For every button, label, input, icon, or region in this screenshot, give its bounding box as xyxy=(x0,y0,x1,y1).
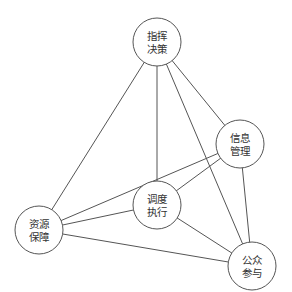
node-info: 信息 管理 xyxy=(216,120,264,168)
node-dispatch: 调度 执行 xyxy=(133,181,181,229)
node-resource-label-line1: 资源 xyxy=(29,218,50,230)
node-layer: 指挥 决策 信息 管理 调度 执行 资源 保障 公众 参与 xyxy=(15,18,276,290)
node-command: 指挥 决策 xyxy=(133,18,181,66)
node-resource: 资源 保障 xyxy=(15,206,63,254)
node-info-label-line1: 信息 xyxy=(230,132,250,144)
node-public-label-line1: 公众 xyxy=(242,254,263,266)
node-dispatch-circle xyxy=(133,181,181,229)
network-diagram: 指挥 决策 信息 管理 调度 执行 资源 保障 公众 参与 xyxy=(0,0,292,292)
node-public-circle xyxy=(228,242,276,290)
node-resource-circle xyxy=(15,206,63,254)
node-command-circle xyxy=(133,18,181,66)
node-command-label-line1: 指挥 xyxy=(147,30,168,42)
edge-resource-public xyxy=(39,230,252,266)
node-command-label-line2: 决策 xyxy=(147,43,168,55)
node-info-label-line2: 管理 xyxy=(230,145,251,157)
node-info-circle xyxy=(216,120,264,168)
node-resource-label-line2: 保障 xyxy=(29,231,50,243)
node-dispatch-label-line1: 调度 xyxy=(147,193,168,205)
node-dispatch-label-line2: 执行 xyxy=(147,206,168,218)
node-public-label-line2: 参与 xyxy=(242,267,262,279)
node-public: 公众 参与 xyxy=(228,242,276,290)
